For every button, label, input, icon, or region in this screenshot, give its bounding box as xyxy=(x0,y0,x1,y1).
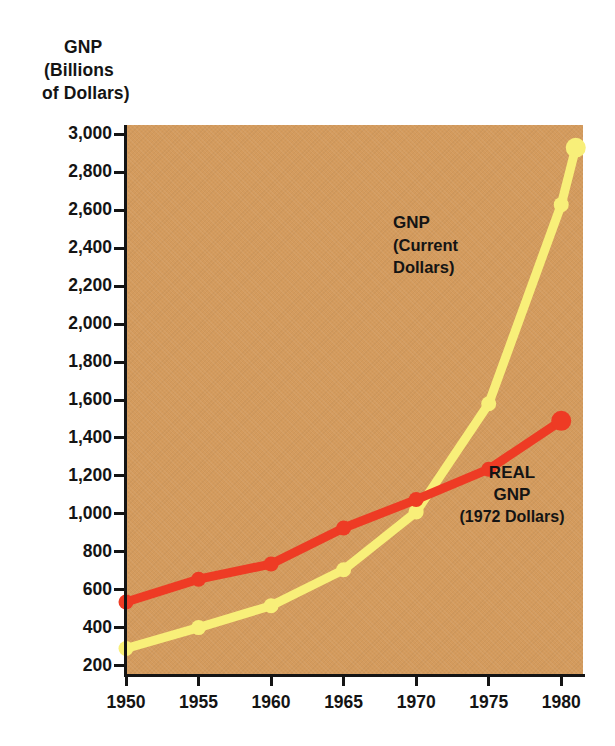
x-axis-tick xyxy=(415,675,418,686)
data-point-marker xyxy=(264,598,279,613)
y-axis-tick xyxy=(114,171,125,174)
series-label-current-gnp-line-1: GNP xyxy=(393,212,523,234)
y-axis-tick xyxy=(114,588,125,591)
y-axis-tick-label-text: 2,800 xyxy=(28,161,112,182)
y-axis-tick-label: 2,000 xyxy=(14,313,112,333)
y-axis-tick-label: 2,800 xyxy=(14,161,112,181)
y-axis-tick-label-text: 800 xyxy=(28,541,112,562)
y-axis-title: GNP (Billions of Dollars) xyxy=(42,36,202,105)
y-axis-tick-label-text: 1,400 xyxy=(28,427,112,448)
y-axis-tick-label: 2,200 xyxy=(14,275,112,295)
x-axis-line xyxy=(124,674,585,677)
data-point-marker xyxy=(566,138,586,158)
y-axis-tick-label: 200 xyxy=(14,655,112,675)
y-axis-tick-label-text: 3,000 xyxy=(28,123,112,144)
x-axis-tick xyxy=(270,675,273,686)
y-axis-tick-label-text: 1,000 xyxy=(28,503,112,524)
y-axis-tick xyxy=(114,512,125,515)
y-axis-title-line-3: of Dollars) xyxy=(42,82,202,105)
y-axis-tick xyxy=(114,399,125,402)
y-axis-tick xyxy=(114,550,125,553)
data-point-marker xyxy=(409,492,424,507)
series-label-current-gnp-line-3: Dollars) xyxy=(393,256,523,278)
x-axis-tick-label: 1960 xyxy=(236,692,306,713)
y-axis-tick-label: 1,000 xyxy=(14,503,112,523)
x-axis-tick xyxy=(125,675,128,686)
x-axis-tick-label: 1950 xyxy=(91,692,161,713)
y-axis-tick-label-text: 2,000 xyxy=(28,313,112,334)
y-axis-title-line-1: GNP xyxy=(42,36,202,59)
y-axis-tick-label: 800 xyxy=(14,541,112,561)
y-axis-tick xyxy=(114,247,125,250)
data-point-marker xyxy=(336,521,351,536)
series-label-real-gnp-line-2: GNP xyxy=(432,484,592,506)
y-axis-tick-label-text: 1,800 xyxy=(28,351,112,372)
x-axis-tick-label: 1975 xyxy=(454,692,524,713)
x-axis-tick-label: 1955 xyxy=(164,692,234,713)
y-axis-tick-label: 400 xyxy=(14,617,112,637)
x-axis-tick-label: 1970 xyxy=(381,692,451,713)
y-axis-tick xyxy=(114,436,125,439)
data-point-marker xyxy=(336,562,351,577)
series-label-real-gnp: REAL GNP (1972 Dollars) xyxy=(432,462,592,528)
series-canvas xyxy=(126,125,583,675)
x-axis-tick-label: 1965 xyxy=(309,692,379,713)
x-axis-tick xyxy=(197,675,200,686)
series-label-real-gnp-line-1: REAL xyxy=(432,462,592,484)
y-axis-tick xyxy=(114,664,125,667)
y-axis-tick xyxy=(114,361,125,364)
y-axis-title-line-2: (Billions xyxy=(42,59,202,82)
y-axis-tick-label-text: 2,600 xyxy=(28,199,112,220)
y-axis-tick xyxy=(114,626,125,629)
y-axis-tick xyxy=(114,133,125,136)
series-label-real-gnp-line-3: (1972 Dollars) xyxy=(432,506,592,528)
x-axis-tick xyxy=(487,675,490,686)
y-axis-tick-label: 1,800 xyxy=(14,351,112,371)
plot-area xyxy=(126,125,583,675)
data-point-marker xyxy=(191,620,206,635)
y-axis-tick-label: 1,600 xyxy=(14,389,112,409)
y-axis-tick-label-text: 600 xyxy=(28,579,112,600)
y-axis-tick xyxy=(114,285,125,288)
y-axis-tick-label: 2,600 xyxy=(14,199,112,219)
series-label-current-gnp: GNP (Current Dollars) xyxy=(393,212,523,278)
y-axis-tick-label: 600 xyxy=(14,579,112,599)
y-axis-tick xyxy=(114,474,125,477)
y-axis-tick-label: 1,200 xyxy=(14,465,112,485)
y-axis-tick-label-text: 1,200 xyxy=(28,465,112,486)
series-label-current-gnp-line-2: (Current xyxy=(393,234,523,256)
data-point-marker xyxy=(191,572,206,587)
y-axis-tick-label-text: 200 xyxy=(28,655,112,676)
y-axis-tick-label: 2,400 xyxy=(14,237,112,257)
y-axis-tick-label: 1,400 xyxy=(14,427,112,447)
x-axis-tick xyxy=(342,675,345,686)
y-axis-tick-label-text: 1,600 xyxy=(28,389,112,410)
y-axis-tick-label-text: 400 xyxy=(28,617,112,638)
y-axis-tick xyxy=(114,209,125,212)
x-axis-tick xyxy=(560,675,563,686)
y-axis-tick xyxy=(114,323,125,326)
gnp-chart: GNP (Billions of Dollars) 3,0002,8002,60… xyxy=(0,0,615,746)
data-point-marker xyxy=(264,557,279,572)
y-axis-tick-label-text: 2,200 xyxy=(28,275,112,296)
data-point-marker xyxy=(481,396,496,411)
x-axis-tick-label: 1980 xyxy=(526,692,596,713)
y-axis-tick-label-text: 2,400 xyxy=(28,237,112,258)
data-point-marker xyxy=(554,197,569,212)
y-axis-tick-label: 3,000 xyxy=(14,123,112,143)
data-point-marker xyxy=(551,411,571,431)
